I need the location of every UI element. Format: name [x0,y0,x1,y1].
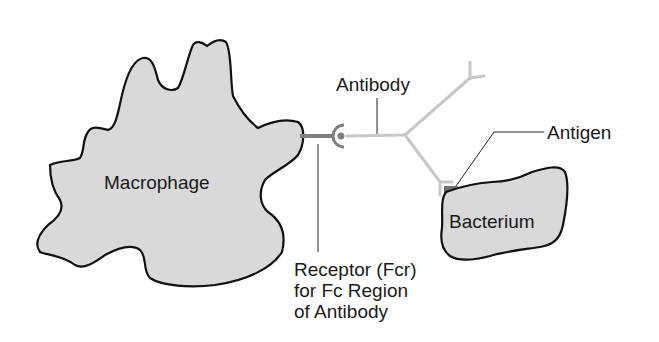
receptor-label-line3: of Antibody [294,301,389,322]
antigen-label: Antigen [547,122,611,143]
receptor-label-line1: Receptor (Fcr) [294,259,416,280]
fc-region-dot [338,133,345,140]
macrophage-cell [37,40,303,286]
macrophage-label: Macrophage [104,172,210,193]
receptor-label-line2: for Fc Region [294,280,408,301]
antibody-label: Antibody [336,74,410,95]
bacterium-label: Bacterium [449,211,535,232]
phagocytosis-diagram: Macrophage Antibody Antigen Bacterium Re… [0,0,659,342]
